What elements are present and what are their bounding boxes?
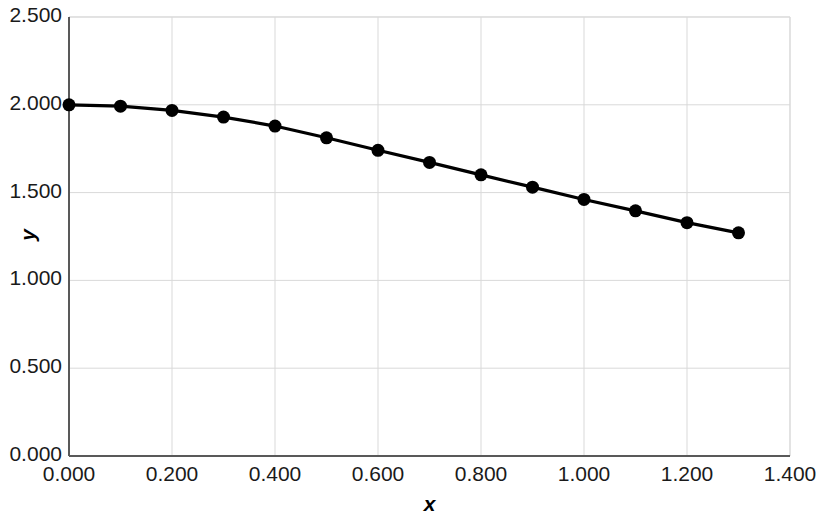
x-tick-label: 1.200 (639, 462, 735, 486)
y-axis-title: y (16, 215, 40, 255)
data-point (732, 226, 745, 239)
data-point (63, 98, 76, 111)
x-tick-label: 0.000 (21, 462, 117, 486)
vertical-gridlines (172, 17, 790, 456)
x-tick-label: 0.400 (227, 462, 323, 486)
y-tick-label: 2.500 (0, 3, 62, 27)
data-point (526, 181, 539, 194)
x-tick-label: 1.400 (742, 462, 820, 486)
data-point (269, 120, 282, 133)
horizontal-gridlines (69, 17, 790, 368)
data-point (681, 216, 694, 229)
data-point (217, 111, 230, 124)
data-point (320, 131, 333, 144)
x-tick-label: 0.200 (124, 462, 220, 486)
data-point (423, 156, 436, 169)
data-point (372, 144, 385, 157)
data-point (629, 204, 642, 217)
x-tick-label: 1.000 (536, 462, 632, 486)
x-tick-label: 0.800 (433, 462, 529, 486)
axis-lines (69, 17, 790, 456)
data-point (114, 100, 127, 113)
y-tick-label: 1.000 (0, 266, 62, 290)
y-tick-label: 1.500 (0, 179, 62, 203)
data-point (166, 104, 179, 117)
y-tick-label: 2.000 (0, 91, 62, 115)
x-axis-title: x (370, 492, 490, 515)
data-point (475, 168, 488, 181)
data-point (578, 193, 591, 206)
data-series-y (63, 98, 746, 239)
y-tick-label: 0.500 (0, 354, 62, 378)
x-tick-label: 0.600 (330, 462, 426, 486)
series-markers (63, 98, 746, 239)
